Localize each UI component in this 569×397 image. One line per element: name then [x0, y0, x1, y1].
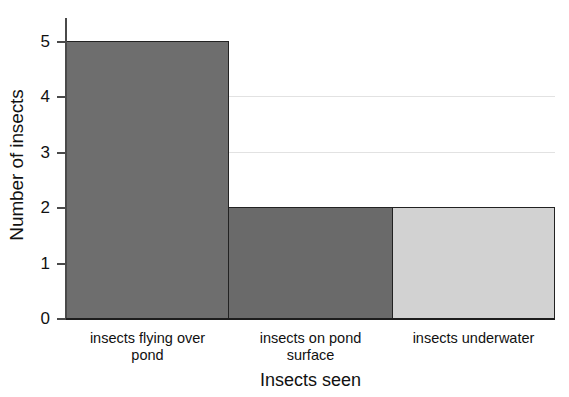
y-axis-line [65, 18, 67, 320]
x-category-label-1-line2: pond [66, 347, 229, 364]
x-axis-line [66, 318, 555, 320]
x-category-label-1: insects flying over pond [66, 330, 229, 364]
y-tick-mark-1 [57, 263, 66, 265]
y-tick-label-0: 0 [26, 310, 50, 327]
x-category-label-2-line2: surface [228, 347, 393, 364]
y-tick-mark-2 [57, 207, 66, 209]
y-tick-label-4: 4 [26, 88, 50, 105]
x-category-label-2-line1: insects on pond [228, 330, 393, 347]
y-tick-label-5: 5 [26, 33, 50, 50]
x-axis-title: Insects seen [66, 370, 555, 391]
bar-chart: Number of insects 5 4 3 2 1 0 insects fl… [0, 0, 569, 397]
y-tick-label-2: 2 [26, 199, 50, 216]
bar-insects-underwater [392, 207, 555, 320]
y-tick-label-3: 3 [26, 144, 50, 161]
bar-insects-flying-over-pond [66, 41, 229, 320]
y-axis-title-text: Number of insects [6, 89, 28, 240]
y-tick-mark-3 [57, 152, 66, 154]
y-tick-mark-5 [57, 41, 66, 43]
y-tick-mark-4 [57, 96, 66, 98]
bar-insects-on-pond-surface [228, 207, 393, 320]
y-tick-mark-0 [57, 318, 66, 320]
x-category-label-3-line1: insects underwater [392, 330, 555, 347]
x-category-label-1-line1: insects flying over [66, 330, 229, 347]
x-category-label-2: insects on pond surface [228, 330, 393, 364]
y-tick-label-1: 1 [26, 255, 50, 272]
x-category-label-3: insects underwater [392, 330, 555, 347]
